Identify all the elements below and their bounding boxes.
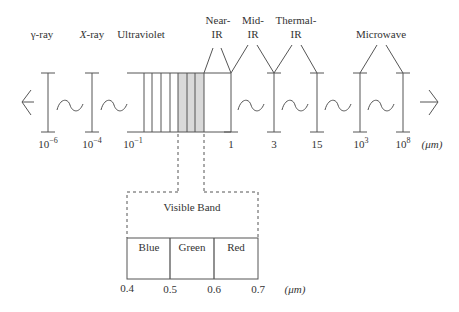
region-label-ultraviolet: Ultraviolet bbox=[117, 28, 165, 40]
region-label-thermal-ir-2: IR bbox=[291, 28, 303, 40]
left-arrow-icon bbox=[22, 90, 34, 115]
tick-label: 108 bbox=[396, 136, 411, 150]
band-tick: 0.6 bbox=[207, 283, 221, 295]
right-arrow-icon bbox=[420, 90, 438, 115]
x-ray-bar bbox=[85, 73, 99, 132]
band-label-blue: Blue bbox=[139, 241, 160, 253]
region-label-microwave: Microwave bbox=[356, 28, 406, 40]
spectrum-diagram: γ-ray X-ray Ultraviolet Near- IR Mid- IR… bbox=[0, 0, 459, 312]
visible-band-title: Visible Band bbox=[163, 201, 221, 213]
band-tick: 0.4 bbox=[120, 282, 134, 294]
unit-label: (μm) bbox=[422, 138, 443, 151]
band-label-green: Green bbox=[179, 241, 206, 253]
tick-label: 103 bbox=[354, 136, 369, 150]
tick-label: 10−1 bbox=[123, 136, 143, 150]
band-label-red: Red bbox=[227, 241, 245, 253]
tick-label: 15 bbox=[312, 138, 324, 150]
ultraviolet-box bbox=[127, 73, 231, 132]
region-label-near-ir-1: Near- bbox=[206, 14, 231, 26]
visible-band-callout bbox=[127, 134, 258, 238]
tick-label: 3 bbox=[271, 138, 277, 150]
region-label-thermal-ir-1: Thermal- bbox=[276, 14, 317, 26]
region-label-mid-ir-1: Mid- bbox=[242, 14, 264, 26]
region-label-near-ir-2: IR bbox=[212, 28, 224, 40]
region-label-gamma: γ-ray bbox=[30, 28, 54, 40]
region-label-mid-ir-2: IR bbox=[248, 28, 260, 40]
tick-label: 10−4 bbox=[82, 136, 102, 150]
band-unit-label: (μm) bbox=[285, 283, 306, 296]
break-symbol bbox=[101, 100, 127, 111]
tick-label: 10−6 bbox=[38, 136, 58, 150]
region-label-xray: X-ray bbox=[79, 28, 105, 40]
visible-shade bbox=[178, 73, 204, 132]
gamma-ray-bar bbox=[41, 73, 55, 132]
band-tick: 0.5 bbox=[163, 283, 177, 295]
break-symbol bbox=[57, 100, 83, 111]
band-tick: 0.7 bbox=[251, 283, 265, 295]
tick-label: 1 bbox=[228, 138, 234, 150]
